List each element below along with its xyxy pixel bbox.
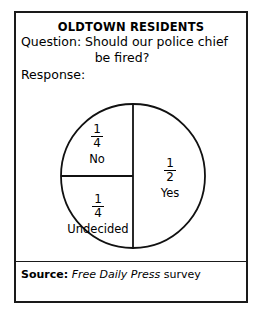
question-line-1: Question: Should our police chief xyxy=(16,34,246,50)
response-label: Response: xyxy=(16,67,246,83)
question-line-2: be fired? xyxy=(16,50,246,66)
source-note: Source: Free Daily Press survey xyxy=(21,268,201,282)
source-suffix: survey xyxy=(164,268,201,281)
pie-chart: 1 4 No 1 4 Undecided 1 2 Yes xyxy=(59,102,207,250)
source-label: Source: xyxy=(21,268,68,281)
footer-divider xyxy=(16,261,246,262)
pie-chart-svg xyxy=(59,102,207,250)
page-title: OLDTOWN RESIDENTS xyxy=(16,20,246,34)
source-publication: Free Daily Press xyxy=(72,268,161,281)
figure-panel: OLDTOWN RESIDENTS Question: Should our p… xyxy=(14,11,248,303)
